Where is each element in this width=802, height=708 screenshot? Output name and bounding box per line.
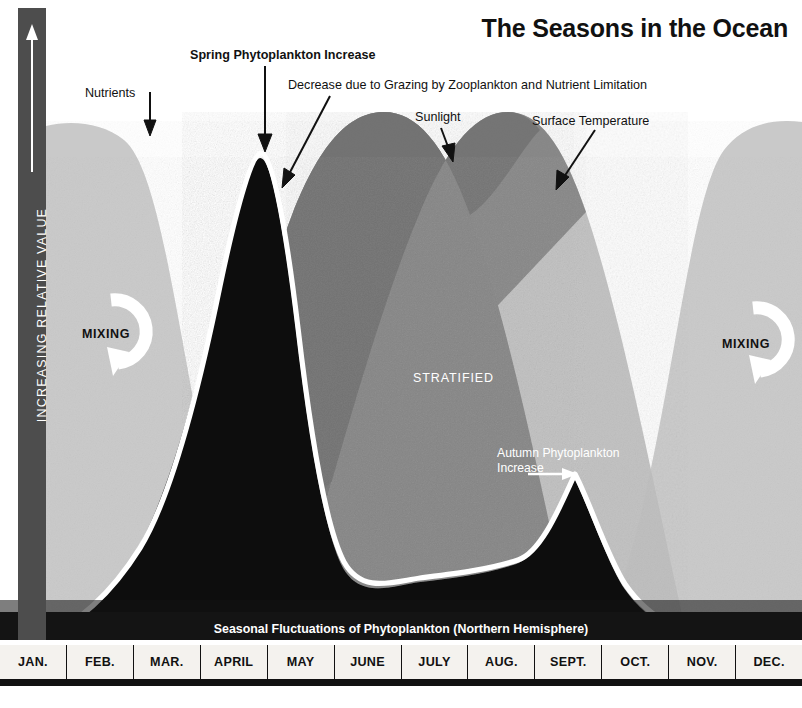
ocean-seasons-figure: INCREASING RELATIVE VALUE The Seasons in… bbox=[0, 0, 802, 708]
label-mixing-right: MIXING bbox=[722, 337, 770, 351]
label-mixing-left: MIXING bbox=[82, 327, 130, 341]
month-tick: JUNE bbox=[335, 645, 402, 679]
chart-title: The Seasons in the Ocean bbox=[482, 14, 788, 43]
month-tick: SEPT. bbox=[535, 645, 602, 679]
label-sunlight: Sunlight bbox=[415, 110, 461, 124]
y-axis-bar: INCREASING RELATIVE VALUE bbox=[18, 8, 46, 640]
month-tick: DEC. bbox=[736, 645, 802, 679]
month-tick: MAY bbox=[268, 645, 335, 679]
label-surface-temperature: Surface Temperature bbox=[532, 114, 649, 128]
month-tick: AUG. bbox=[468, 645, 535, 679]
chart-subtitle: Seasonal Fluctuations of Phytoplankton (… bbox=[0, 622, 802, 636]
month-axis: JAN.FEB.MAR.APRILMAYJUNEJULYAUG.SEPT.OCT… bbox=[0, 645, 802, 679]
label-autumn-phytoplankton-increase: Autumn Phytoplankton Increase bbox=[497, 446, 647, 476]
month-tick: FEB. bbox=[67, 645, 134, 679]
month-tick: JULY bbox=[402, 645, 469, 679]
label-nutrients: Nutrients bbox=[85, 86, 135, 100]
label-spring-phytoplankton-increase: Spring Phytoplankton Increase bbox=[190, 48, 375, 62]
label-stratified: STRATIFIED bbox=[413, 371, 494, 385]
up-arrow-icon bbox=[25, 22, 39, 172]
month-tick: OCT. bbox=[602, 645, 669, 679]
label-decrease-due-to-grazing: Decrease due to Grazing by Zooplankton a… bbox=[288, 78, 647, 92]
month-tick: NOV. bbox=[669, 645, 736, 679]
month-axis-bottom-bar bbox=[0, 679, 802, 686]
month-tick: MAR. bbox=[134, 645, 201, 679]
month-tick: APRIL bbox=[201, 645, 268, 679]
month-tick: JAN. bbox=[0, 645, 67, 679]
